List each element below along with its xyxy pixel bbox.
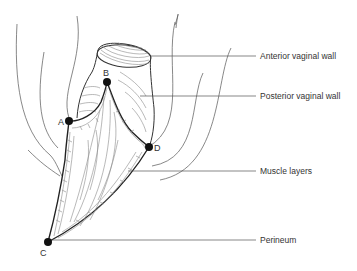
point-d-marker <box>145 143 153 151</box>
label-perineum: Perineum <box>260 235 296 245</box>
point-b-label: B <box>103 68 109 78</box>
point-c-label: C <box>40 248 47 258</box>
point-c-marker <box>44 238 52 246</box>
tube-wall-hatching <box>79 72 146 132</box>
point-a-marker <box>65 117 73 125</box>
point-b-marker <box>103 78 111 86</box>
leader-lines <box>50 56 256 240</box>
anatomical-diagram: Anterior vaginal wall Posterior vaginal … <box>0 0 357 271</box>
body-contours <box>16 14 231 180</box>
tube-outline <box>77 43 154 147</box>
right-outer-contour <box>175 14 178 28</box>
labels: Anterior vaginal wall Posterior vaginal … <box>260 51 340 245</box>
left-inner-contour <box>40 52 58 148</box>
vaginal-tube <box>77 42 154 147</box>
point-d-label: D <box>154 143 161 153</box>
wound-outline <box>48 82 149 242</box>
left-outer-contour <box>16 24 62 176</box>
left-upper-contour <box>67 16 78 118</box>
label-posterior-vaginal-wall: Posterior vaginal wall <box>260 91 340 101</box>
label-anterior-vaginal-wall: Anterior vaginal wall <box>260 51 336 61</box>
tear-wound <box>48 82 149 242</box>
label-muscle-layers: Muscle layers <box>260 166 312 176</box>
point-a-label: A <box>58 117 64 127</box>
points: A B C D <box>40 68 161 258</box>
